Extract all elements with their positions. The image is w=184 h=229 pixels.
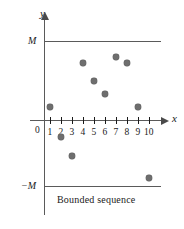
lower-bound-label: −M [21,181,36,191]
origin-label: 0 [35,126,40,136]
bounded-sequence-figure: 1 2 3 4 5 6 7 8 9 10 y x M −M 0 Bounded … [0,0,184,229]
label-layer: y x M −M 0 Bounded sequence [0,0,184,229]
upper-bound-label: M [28,36,36,46]
x-axis-label: x [172,113,177,124]
y-axis-label: y [40,8,45,19]
figure-caption: Bounded sequence [57,195,135,205]
